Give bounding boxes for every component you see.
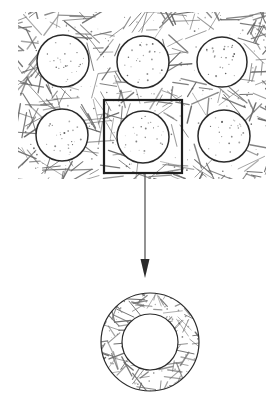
inclusion-stipple-dot <box>136 134 138 136</box>
inclusion-stipple-dot <box>60 62 61 63</box>
stipple-dot <box>25 12 26 13</box>
inclusion-stipple-dot <box>133 127 135 129</box>
inclusion-stipple-dot <box>219 132 220 133</box>
stipple-dot <box>112 142 114 144</box>
inclusion-stipple-dot <box>137 58 138 59</box>
stipple-dot <box>68 30 69 31</box>
circle-bottom-center <box>117 111 169 163</box>
inclusion-stipple-dot <box>131 66 132 67</box>
stipple-dot <box>222 170 224 172</box>
stipple-dot <box>198 122 200 124</box>
stipple-dot <box>42 163 43 164</box>
stipple-dot <box>253 17 254 18</box>
inclusion-stipple-dot <box>146 44 148 46</box>
stipple-dot <box>107 68 108 69</box>
inclusion-stipple-dot <box>229 127 230 128</box>
stipple-dot <box>188 360 189 361</box>
stipple-dot <box>145 301 147 303</box>
stipple-dot <box>200 176 202 178</box>
inclusion-stipple-dot <box>213 50 215 52</box>
stipple-dot <box>116 319 117 320</box>
stipple-dot <box>44 161 45 162</box>
stipple-dot <box>129 164 130 165</box>
inclusion-stipple-dot <box>242 132 244 134</box>
inclusion-stipple-dot <box>215 154 216 155</box>
inclusion-stipple-dot <box>56 42 57 43</box>
stipple-dot <box>120 307 121 308</box>
stipple-dot <box>153 372 154 373</box>
inclusion-stipple-dot <box>232 55 234 57</box>
stipple-dot <box>37 167 38 168</box>
inclusion-stipple-dot <box>231 125 232 126</box>
inclusion-stipple-dot <box>208 74 209 75</box>
inclusion-stipple-dot <box>52 125 53 126</box>
stipple-dot <box>75 27 76 28</box>
inclusion-stipple-dot <box>68 148 70 150</box>
inclusion-stipple-dot <box>156 138 157 139</box>
stipple-dot <box>41 173 42 174</box>
stipple-dot <box>168 163 169 164</box>
stipple-dot <box>208 171 209 172</box>
stipple-dot <box>83 18 84 19</box>
stipple-dot <box>126 165 128 167</box>
stipple-dot <box>169 316 170 317</box>
inclusion-stipple-dot <box>70 60 72 62</box>
stipple-dot <box>222 91 224 93</box>
stipple-dot <box>131 301 132 302</box>
stipple-dot <box>137 383 139 385</box>
stipple-dot <box>66 25 67 26</box>
inclusion-stipple-dot <box>72 144 73 145</box>
stipple-dot <box>194 358 195 359</box>
inclusion-stipple-dot <box>153 127 154 128</box>
stipple-dot <box>93 14 95 16</box>
stipple-dot <box>256 149 257 150</box>
stipple-dot <box>121 368 122 369</box>
inclusion-stipple-dot <box>57 58 58 59</box>
inclusion-stipple-dot <box>162 144 163 145</box>
inclusion-stipple-dot <box>47 53 48 54</box>
inclusion-stipple-dot <box>228 142 230 144</box>
inclusion-stipple-dot <box>225 73 227 75</box>
inclusion-stipple-dot <box>50 61 51 62</box>
stipple-dot <box>97 148 99 150</box>
inclusion-stipple-dot <box>125 135 126 136</box>
stipple-dot <box>178 320 180 322</box>
inclusion-stipple-dot <box>233 120 234 121</box>
inclusion-stipple-dot <box>233 53 235 55</box>
inclusion-stipple-dot <box>147 79 149 81</box>
stipple-dot <box>153 20 154 21</box>
inclusion-stipple-dot <box>154 51 156 53</box>
stipple-dot <box>103 56 104 57</box>
stipple-dot <box>198 28 199 29</box>
inclusion-stipple-dot <box>68 144 69 145</box>
inclusion-stipple-dot <box>80 139 82 141</box>
stipple-dot <box>81 86 82 87</box>
stipple-dot <box>262 83 263 84</box>
inclusion-stipple-dot <box>229 151 231 153</box>
inclusion-stipple-dot <box>134 133 135 134</box>
inclusion-stipple-dot <box>49 123 51 125</box>
stipple-dot <box>114 132 115 133</box>
inclusion-stipple-dot <box>210 126 211 127</box>
stipple-dot <box>257 153 259 155</box>
stipple-dot <box>26 70 28 72</box>
circle-bottom-right <box>198 110 250 162</box>
stipple-dot <box>37 41 39 43</box>
inclusion-stipple-dot <box>234 120 235 121</box>
stipple-dot <box>248 92 249 93</box>
stipple-dot <box>168 370 169 371</box>
stipple-dot <box>218 177 220 179</box>
stipple-dot <box>70 165 71 166</box>
stipple-dot <box>211 98 212 99</box>
inclusion-stipple-dot <box>67 65 68 66</box>
stipple-dot <box>259 22 261 24</box>
inclusion-stipple-dot <box>160 73 161 74</box>
stipple-dot <box>52 87 53 88</box>
inclusion-stipple-dot <box>143 55 144 56</box>
stipple-dot <box>140 96 141 97</box>
stipple-dot <box>93 108 95 110</box>
stipple-dot <box>164 306 166 308</box>
stipple-dot <box>71 164 72 165</box>
stipple-dot <box>117 334 118 335</box>
stipple-dot <box>90 31 92 33</box>
